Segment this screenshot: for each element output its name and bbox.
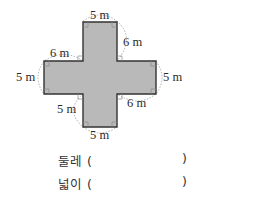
perimeter-label: 둘레 — [58, 154, 82, 169]
label-bottom: 5 m — [90, 128, 109, 140]
perimeter-close-paren: ) — [182, 151, 187, 166]
area-close-paren: ) — [182, 174, 187, 189]
label-right: 5 m — [163, 70, 182, 84]
cross-figure: 5 m 6 m 6 m 5 m 5 m 5 m 6 m 5 m — [0, 0, 263, 140]
area-label: 넓이 — [58, 177, 82, 192]
label-left: 5 m — [16, 70, 35, 84]
label-top-left-arm: 6 m — [50, 46, 69, 60]
label-top: 5 m — [90, 8, 109, 22]
perimeter-open-paren: ( — [87, 154, 92, 169]
answer-area: 넓이( ) — [58, 174, 92, 193]
label-top-right-arm: 6 m — [123, 35, 142, 49]
area-open-paren: ( — [87, 177, 92, 192]
answer-perimeter: 둘레( ) — [58, 151, 92, 170]
label-bottom-left-arm: 5 m — [57, 102, 76, 116]
label-bottom-right-arm: 6 m — [127, 96, 146, 110]
